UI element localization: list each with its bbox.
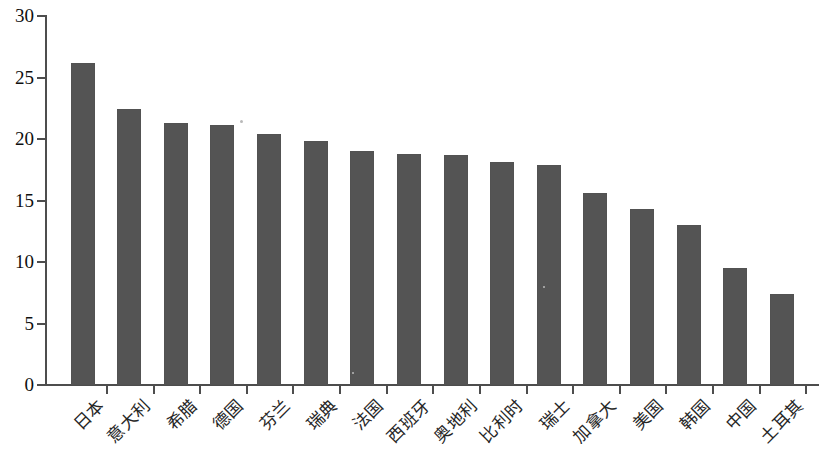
x-axis-category-label: 土耳其 [757, 396, 807, 446]
x-axis-tick [246, 386, 248, 394]
x-axis-tick [665, 386, 667, 394]
x-axis-category-label: 瑞典 [303, 396, 340, 433]
bar [210, 125, 234, 385]
x-axis-tick [712, 386, 714, 394]
scan-speck [352, 372, 354, 374]
x-axis-category-label: 芬兰 [256, 396, 293, 433]
x-axis-tick [479, 386, 481, 394]
x-axis-category-label: 德国 [209, 396, 246, 433]
x-axis-category-label: 意大利 [104, 396, 154, 446]
x-axis-tick [292, 386, 294, 394]
x-axis-tick [805, 386, 807, 394]
bar [677, 225, 701, 385]
x-axis-tick [386, 386, 388, 394]
x-axis-category-label: 日本 [70, 396, 107, 433]
x-axis-category-label: 瑞士 [536, 396, 573, 433]
bar-chart: 051015202530 日本意大利希腊德国芬兰瑞典法国西班牙奥地利比利时瑞士加… [0, 0, 819, 466]
y-axis-tick [37, 15, 45, 17]
y-axis-tick [37, 138, 45, 140]
y-axis-tick-label: 10 [0, 252, 34, 271]
y-axis-tick [37, 200, 45, 202]
bar [304, 141, 328, 385]
bar [770, 294, 794, 385]
y-axis-tick [37, 323, 45, 325]
bar [397, 154, 421, 385]
bar [71, 63, 95, 385]
bar [164, 123, 188, 385]
bar [350, 151, 374, 385]
y-axis-tick-label: 5 [0, 314, 34, 333]
x-axis-tick [153, 386, 155, 394]
y-axis-tick-label: 20 [0, 129, 34, 148]
bar [117, 109, 141, 385]
x-axis-category-label: 奥地利 [431, 396, 481, 446]
x-axis-tick [526, 386, 528, 394]
x-axis-category-label: 加拿大 [570, 396, 620, 446]
y-axis-tick [37, 261, 45, 263]
scan-speck [543, 286, 545, 288]
x-axis-category-label: 韩国 [676, 396, 713, 433]
y-axis-tick-label: 25 [0, 68, 34, 87]
y-axis-tick-label: 15 [0, 191, 34, 210]
x-axis-category-label: 美国 [629, 396, 666, 433]
bar [723, 268, 747, 385]
scan-speck [240, 120, 243, 123]
y-axis-line [45, 15, 47, 386]
x-axis-category-label: 西班牙 [384, 396, 434, 446]
bar [444, 155, 468, 385]
x-axis-tick [619, 386, 621, 394]
y-axis-tick [37, 77, 45, 79]
x-axis-tick [199, 386, 201, 394]
x-axis-tick [339, 386, 341, 394]
x-axis-tick [432, 386, 434, 394]
x-axis-tick [759, 386, 761, 394]
y-axis-tick-label: 0 [0, 375, 34, 394]
x-axis-category-label: 法国 [349, 396, 386, 433]
y-axis-tick [37, 384, 45, 386]
x-axis-category-label: 比利时 [477, 396, 527, 446]
bar [257, 134, 281, 385]
bar [630, 209, 654, 385]
x-axis-category-label: 中国 [722, 396, 759, 433]
bar [490, 162, 514, 385]
bar [583, 193, 607, 385]
x-axis-category-label: 希腊 [163, 396, 200, 433]
y-axis-tick-label: 30 [0, 6, 34, 25]
x-axis-tick [106, 386, 108, 394]
bar [537, 165, 561, 385]
x-axis-tick [572, 386, 574, 394]
